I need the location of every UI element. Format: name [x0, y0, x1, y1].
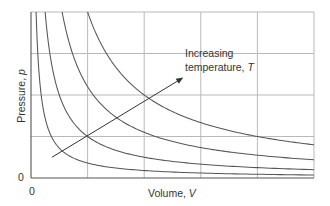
arrow-head-icon [176, 78, 184, 84]
x-origin-label: 0 [29, 185, 35, 197]
isotherm-curve-2 [45, 12, 314, 170]
annotation-prefix: temperature, [185, 61, 247, 73]
y-origin-label: 0 [18, 171, 24, 183]
grid-lines [31, 12, 314, 178]
annotation-line2: temperature, T [185, 61, 255, 73]
isotherm-curves [36, 12, 314, 175]
arrow-shaft [52, 80, 180, 158]
increasing-temperature-arrow [52, 78, 183, 158]
x-axis-label: Volume, V [148, 187, 197, 199]
annotation-line1: Increasing [185, 47, 234, 59]
y-axis-label: Pressure, p [15, 69, 27, 123]
pv-isotherm-chart: Increasing temperature, T 0 0 Volume, V … [0, 0, 330, 206]
annotation-var: T [247, 61, 255, 73]
isotherm-curve-1 [36, 12, 314, 175]
isotherm-curve-3 [62, 12, 314, 160]
